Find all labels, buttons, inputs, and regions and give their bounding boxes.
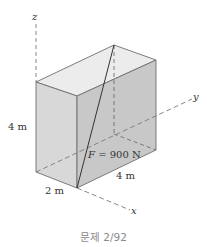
z-axis-label: z — [31, 11, 38, 22]
figure-caption: 문제 2/92 — [0, 229, 207, 244]
x-axis-label: x — [131, 205, 137, 216]
length-label: 4 m — [116, 170, 136, 181]
force-label: F = 900 N — [87, 149, 141, 160]
depth-label: 2 m — [45, 185, 65, 196]
height-label: 4 m — [8, 121, 28, 132]
left-face — [36, 82, 77, 188]
force-value: = 900 N — [95, 149, 141, 160]
box-force-diagram: z y x 4 m 2 m 4 m F = 900 N — [0, 0, 207, 247]
y-axis-label: y — [192, 91, 199, 102]
x-axis — [77, 188, 130, 210]
